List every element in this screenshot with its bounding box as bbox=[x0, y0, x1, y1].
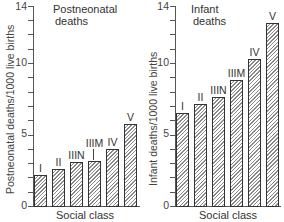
y-tick bbox=[170, 6, 175, 7]
y-tick bbox=[28, 92, 33, 93]
y-tick bbox=[28, 20, 33, 21]
title-line-1: Postneonatal bbox=[53, 3, 117, 15]
bar-v bbox=[124, 124, 137, 207]
y-tick bbox=[28, 77, 33, 78]
y-axis-label: Infant deaths/1000 live births bbox=[147, 52, 159, 186]
y-tick bbox=[170, 77, 175, 78]
y-tick bbox=[28, 6, 33, 7]
bar-v bbox=[266, 23, 279, 207]
y-tick bbox=[28, 34, 33, 35]
bar-label: IIIN bbox=[204, 84, 234, 96]
y-axis-label: Postneonatal deaths/1000 live births bbox=[4, 25, 16, 194]
y-tick bbox=[170, 177, 175, 178]
bar-iv bbox=[106, 149, 119, 207]
y-tick bbox=[170, 192, 175, 193]
bar-i bbox=[176, 113, 189, 207]
chart-title: Infant deaths bbox=[191, 3, 226, 27]
tick-label-5: 5 bbox=[155, 127, 169, 139]
y-tick bbox=[170, 63, 175, 64]
y-tick bbox=[28, 63, 33, 64]
y-tick bbox=[28, 106, 33, 107]
y-tick bbox=[170, 163, 175, 164]
tick-label-10: 10 bbox=[13, 56, 27, 68]
infant-chart: Infant deaths/1000 live births 0 5 10 14… bbox=[141, 0, 283, 222]
bar-i bbox=[34, 175, 47, 207]
bar-label: IIIM bbox=[222, 67, 252, 79]
bar-iv bbox=[248, 59, 261, 207]
chart-title: Postneonatal deaths bbox=[53, 3, 117, 27]
postneonatal-chart: Postneonatal deaths/1000 live births 0 5… bbox=[0, 0, 141, 222]
tick-label-14: 14 bbox=[155, 0, 169, 12]
title-line-1: Infant bbox=[191, 3, 226, 15]
bar-ii bbox=[194, 104, 207, 207]
y-tick bbox=[170, 149, 175, 150]
y-tick bbox=[28, 49, 33, 50]
x-axis-label: Social class bbox=[56, 209, 114, 221]
y-tick bbox=[170, 92, 175, 93]
bar-iiin bbox=[212, 97, 225, 207]
x-axis-label: Social class bbox=[199, 209, 257, 221]
title-line-2: deaths bbox=[53, 15, 117, 27]
y-tick bbox=[28, 177, 33, 178]
y-tick bbox=[170, 49, 175, 50]
bar-label: IIIN bbox=[62, 149, 92, 161]
title-line-2: deaths bbox=[191, 15, 226, 27]
bar-ii bbox=[52, 169, 65, 207]
bar-iiin bbox=[70, 162, 83, 207]
tick-label-0: 0 bbox=[155, 199, 169, 211]
bar-label: IV bbox=[98, 136, 128, 148]
tick-label-10: 10 bbox=[155, 56, 169, 68]
y-tick bbox=[170, 34, 175, 35]
tick-label-14: 14 bbox=[13, 0, 27, 12]
bar-iiim bbox=[230, 80, 243, 207]
bar-iiim bbox=[88, 161, 101, 207]
label-leader-line bbox=[93, 149, 94, 160]
y-tick bbox=[170, 135, 175, 136]
tick-label-5: 5 bbox=[13, 127, 27, 139]
y-tick bbox=[28, 149, 33, 150]
y-tick bbox=[28, 135, 33, 136]
y-tick bbox=[170, 206, 175, 207]
bar-label: IV bbox=[240, 46, 270, 58]
bar-label: V bbox=[258, 10, 284, 22]
y-tick bbox=[170, 20, 175, 21]
y-tick bbox=[28, 206, 33, 207]
tick-label-0: 0 bbox=[13, 199, 27, 211]
y-tick bbox=[170, 120, 175, 121]
y-tick bbox=[28, 120, 33, 121]
y-tick bbox=[28, 192, 33, 193]
